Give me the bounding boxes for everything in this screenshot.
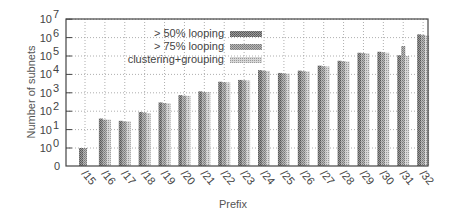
- y-axis-ticks: 0100101102103104105106107: [40, 8, 72, 172]
- bar-group: [298, 71, 310, 166]
- y-tick-label: 10: [40, 32, 52, 44]
- bar: [326, 66, 330, 166]
- bar: [206, 92, 210, 166]
- bar-group: [357, 53, 369, 166]
- y-tick-label: 10: [40, 105, 52, 117]
- bar: [119, 121, 123, 166]
- x-tick-label: /15: [79, 168, 98, 187]
- y-tick-label: 10: [40, 13, 52, 25]
- bar: [163, 103, 167, 166]
- bar: [103, 120, 107, 166]
- x-tick-label: /21: [199, 168, 218, 187]
- bar: [298, 71, 302, 166]
- x-tick-label: /28: [338, 168, 357, 187]
- bar-group: [99, 119, 111, 166]
- y-tick-label: 10: [40, 68, 52, 80]
- y-axis-label: Number of subnets: [25, 45, 37, 138]
- x-tick-label: /24: [258, 168, 277, 187]
- legend: > 50% looping> 75% loopingclustering+gro…: [128, 27, 262, 65]
- bar: [318, 66, 322, 166]
- x-tick-label: /22: [219, 168, 238, 187]
- y-tick-label: 0: [54, 160, 60, 172]
- bar: [246, 80, 250, 166]
- bar: [405, 56, 409, 166]
- bar: [99, 119, 103, 166]
- bar-group: [318, 66, 330, 166]
- x-tick-label: /27: [318, 168, 337, 187]
- x-tick-label: /23: [239, 168, 258, 187]
- bar-group: [178, 95, 190, 166]
- bar-group: [198, 91, 210, 166]
- legend-swatch: [230, 31, 262, 37]
- bar: [159, 102, 163, 166]
- bar: [377, 52, 381, 166]
- bar: [186, 96, 190, 166]
- y-tick-exponent: 5: [53, 45, 59, 57]
- bar: [342, 61, 346, 166]
- bar: [147, 113, 151, 166]
- bar: [182, 96, 186, 166]
- bar: [278, 73, 282, 166]
- legend-swatch: [230, 57, 262, 63]
- bar: [79, 148, 83, 166]
- bar-group: [79, 148, 87, 166]
- bar: [238, 80, 242, 166]
- legend-label: > 50% looping: [154, 27, 224, 39]
- bar: [258, 70, 262, 166]
- y-tick-exponent: 2: [53, 100, 59, 112]
- y-tick-exponent: 6: [53, 27, 59, 39]
- bar-group: [238, 80, 250, 166]
- x-tick-label: /30: [378, 168, 397, 187]
- bar: [302, 71, 306, 166]
- x-tick-label: /16: [99, 168, 118, 187]
- y-tick-exponent: 3: [53, 82, 59, 94]
- y-tick-exponent: 7: [53, 8, 59, 20]
- bar: [365, 53, 369, 166]
- bar-group: [397, 46, 409, 166]
- bar: [127, 121, 131, 166]
- x-tick-label: /31: [398, 168, 417, 187]
- x-tick-label: /20: [179, 168, 198, 187]
- bar: [123, 121, 127, 166]
- bar: [107, 120, 111, 166]
- bar-group: [338, 61, 350, 166]
- bar-group: [377, 52, 389, 166]
- bar: [242, 80, 246, 166]
- y-tick-label: 10: [40, 142, 52, 154]
- bar: [421, 35, 425, 166]
- y-tick-label: 10: [40, 50, 52, 62]
- bar: [381, 52, 385, 166]
- bar-group: [218, 82, 230, 166]
- bar: [385, 53, 389, 166]
- bar: [322, 66, 326, 166]
- bar: [282, 73, 286, 166]
- bar: [266, 71, 270, 166]
- bar-group: [139, 112, 151, 166]
- y-tick-label: 10: [40, 124, 52, 136]
- y-tick-exponent: 1: [53, 119, 59, 131]
- x-tick-label: /25: [278, 168, 297, 187]
- bar: [222, 82, 226, 166]
- bar: [218, 82, 222, 166]
- bar: [361, 53, 365, 166]
- bar: [178, 95, 182, 166]
- bar: [397, 55, 401, 166]
- chart: 0100101102103104105106107 /15/16/17/18/1…: [0, 0, 452, 214]
- bar: [338, 61, 342, 166]
- bar: [198, 91, 202, 166]
- y-tick-exponent: 4: [53, 63, 59, 75]
- x-tick-label: /32: [418, 168, 437, 187]
- bar: [83, 148, 87, 166]
- bar: [226, 82, 230, 166]
- y-tick-exponent: 0: [53, 137, 59, 149]
- legend-label: clustering+grouping: [128, 53, 224, 65]
- x-tick-label: /18: [139, 168, 158, 187]
- x-axis-ticks: /15/16/17/18/19/20/21/22/23/24/25/26/27/…: [79, 168, 436, 187]
- x-tick-label: /29: [358, 168, 377, 187]
- bar: [286, 74, 290, 166]
- bar: [357, 53, 361, 166]
- bar: [417, 34, 421, 166]
- x-tick-label: /19: [159, 168, 178, 187]
- bar: [306, 71, 310, 166]
- bar: [139, 112, 143, 166]
